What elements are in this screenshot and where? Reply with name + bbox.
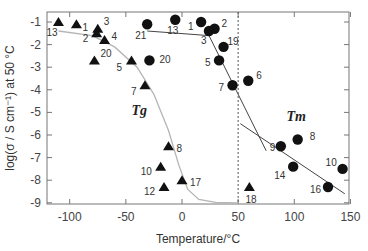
x-tick-label: 50	[231, 210, 245, 224]
circle-marker	[292, 134, 302, 144]
x-axis-label: Temperature/°C	[156, 232, 240, 246]
x-tick-label: 0	[179, 210, 186, 224]
chart: -100-50050100150 -1-2-3-4-5-6-7-8-9 1313…	[0, 0, 368, 251]
triangle-marker	[89, 55, 100, 64]
point-label: 13	[167, 25, 179, 36]
y-tick-label: -7	[30, 151, 41, 165]
y-tick-label: -1	[30, 15, 41, 29]
triangle-marker	[53, 17, 64, 26]
y-tick-label: -6	[30, 128, 41, 142]
y-axis-label: log(σ / S cm⁻¹) at 50 °C	[3, 45, 17, 171]
point-label: 14	[274, 170, 286, 181]
y-tick-label: -4	[30, 83, 41, 97]
point-label: 1	[188, 21, 194, 32]
point-label: 7	[131, 86, 137, 97]
triangle-marker	[244, 182, 255, 191]
x-tick-label: 150	[340, 210, 360, 224]
point-label: 8	[310, 131, 316, 142]
y-tick-label: -8	[30, 173, 41, 187]
x-tick-label: -100	[58, 210, 82, 224]
point-label: 10	[326, 157, 338, 168]
point-label: 8	[177, 143, 183, 154]
circle-marker	[214, 55, 224, 65]
point-label: 3	[104, 16, 110, 27]
triangle-marker	[155, 162, 166, 171]
triangle-marker	[139, 80, 150, 89]
x-tick-label: -50	[117, 210, 135, 224]
circle-marker	[196, 17, 206, 27]
circle-marker	[227, 80, 237, 90]
circle-marker	[243, 76, 253, 86]
point-label: 16	[310, 184, 322, 195]
point-label: 10	[141, 166, 153, 177]
point-label: 20	[159, 54, 171, 65]
y-tick-label: -2	[30, 38, 41, 52]
triangle-marker	[71, 19, 82, 28]
point-label: 20	[100, 48, 112, 59]
point-label: 5	[116, 62, 122, 73]
point-label: 18	[245, 194, 257, 205]
circle-marker	[337, 164, 347, 174]
plot-frame	[47, 12, 349, 204]
point-label: 2	[222, 18, 228, 29]
circle-marker	[323, 182, 333, 192]
circle-marker	[170, 15, 180, 25]
region-label-tg: Tg	[131, 103, 147, 118]
point-label: 4	[112, 31, 118, 42]
point-label: 13	[46, 27, 58, 38]
triangle-marker	[126, 55, 137, 64]
point-label: 12	[144, 186, 156, 197]
y-tick-label: -3	[30, 60, 41, 74]
point-label: 7	[219, 82, 225, 93]
point-label: 1	[82, 22, 88, 33]
y-tick-label: -9	[30, 196, 41, 210]
triangle-marker	[159, 182, 170, 191]
point-label: 3	[201, 35, 207, 46]
point-label: 9	[270, 142, 276, 153]
circle-marker	[144, 55, 154, 65]
annotations: TgTm	[131, 103, 306, 125]
region-label-tm: Tm	[286, 109, 306, 124]
point-label: 2	[83, 33, 89, 44]
point-label: 19	[228, 36, 240, 47]
point-label: 21	[135, 30, 147, 41]
x-tick-label: 100	[284, 210, 304, 224]
triangle-marker	[177, 175, 188, 184]
point-label: 17	[190, 177, 202, 188]
point-label: 5	[205, 57, 211, 68]
y-tick-label: -5	[30, 105, 41, 119]
circle-marker	[142, 19, 152, 29]
point-label: 6	[256, 70, 262, 81]
circle-marker	[276, 141, 286, 151]
circle-marker	[288, 161, 298, 171]
